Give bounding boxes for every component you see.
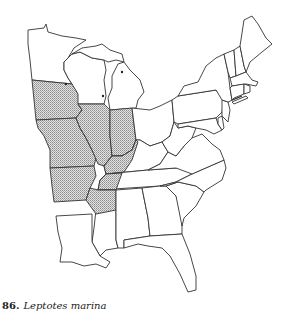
record-dot-michigan (121, 71, 123, 73)
figure-caption: 86.Leptotes marina (2, 300, 106, 311)
state-michigan-lower (108, 62, 144, 110)
state-rhode-island (244, 84, 250, 94)
range-map (0, 0, 289, 300)
state-maine (240, 16, 272, 72)
state-florida (124, 234, 196, 292)
figure-number: 86. (2, 300, 19, 311)
mississippi-shaded-portion (86, 188, 116, 214)
state-new-jersey (222, 100, 230, 122)
record-dot-wisconsin-east (102, 95, 104, 97)
species-name: Leptotes marina (23, 300, 106, 311)
record-dot-wisconsin (65, 83, 67, 85)
